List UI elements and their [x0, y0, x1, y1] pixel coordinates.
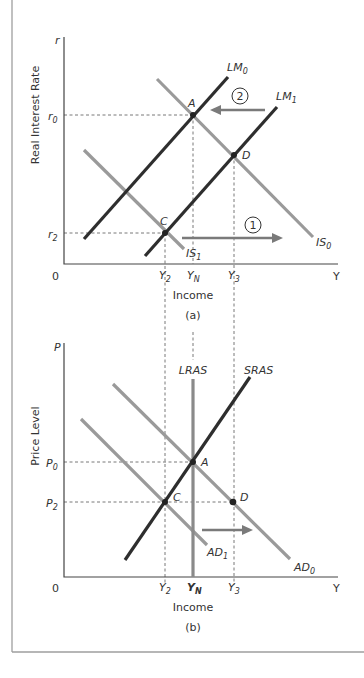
- point-c-marker: [162, 230, 168, 236]
- y-axis-title-a: Real Interest Rate: [29, 66, 42, 165]
- sras-label: SRAS: [244, 364, 273, 377]
- step-1-label: 1: [250, 219, 257, 232]
- tick-y2-b: Y2: [159, 581, 171, 596]
- point-a-label-b: A: [200, 456, 209, 469]
- arrow-head-left: [210, 105, 221, 115]
- point-d-label-b: D: [240, 491, 248, 504]
- ad1-label: AD1: [206, 546, 228, 561]
- ad1-curve: [81, 419, 207, 545]
- point-d-label: D: [242, 149, 250, 162]
- tick-yn-b: YN: [187, 581, 202, 596]
- point-a-label: A: [187, 97, 196, 110]
- tick-p2: P2: [46, 497, 58, 512]
- point-c-label: C: [160, 215, 168, 228]
- origin-b: 0: [52, 582, 59, 595]
- lm0-label: LM0: [227, 61, 248, 76]
- is0-label: IS0: [316, 236, 331, 251]
- arrow-head-right: [272, 233, 283, 243]
- origin-a: 0: [52, 270, 59, 283]
- is1-curve: [84, 150, 184, 249]
- is1-label: IS1: [186, 247, 201, 262]
- figure-frame: 2 1 A D C LM0 LM1 IS0 IS1 r Y 0 r0 r2 Y2…: [0, 0, 364, 678]
- x-axis-title-b: Income: [173, 601, 214, 614]
- tick-p0: P0: [46, 457, 58, 472]
- panel-a-caption: (a): [185, 309, 200, 322]
- y-axis-var-r: r: [55, 34, 61, 47]
- tick-y2-a: Y2: [159, 269, 171, 284]
- panel-b-ad-as: A C D LRAS SRAS AD0 AD1 P Y 0 P0 P2 Y2 Y…: [29, 341, 340, 634]
- sras-curve: [125, 377, 250, 560]
- point-d-marker-b: [230, 499, 237, 506]
- tick-r0: r0: [48, 110, 58, 125]
- lm0-curve: [84, 77, 228, 239]
- step-2-label: 2: [237, 90, 244, 103]
- point-d-marker: [231, 152, 237, 158]
- arrow-head-right-b: [242, 525, 253, 535]
- y-axis-var-p: P: [54, 341, 61, 354]
- ad0-label: AD0: [293, 561, 315, 576]
- point-a-marker: [190, 112, 196, 118]
- axes-a: [64, 37, 338, 264]
- x-axis-var-y-a: Y: [332, 270, 340, 283]
- x-axis-title-a: Income: [173, 289, 214, 302]
- panel-b-caption: (b): [185, 621, 201, 634]
- tick-r2: r2: [48, 228, 58, 243]
- point-a-marker-b: [190, 459, 196, 465]
- point-c-marker-b: [162, 499, 168, 505]
- tick-y3-b: Y3: [228, 581, 240, 596]
- x-axis-var-y-b: Y: [332, 582, 340, 595]
- tick-yn-a: YN: [187, 269, 200, 284]
- point-c-label-b: C: [173, 491, 181, 504]
- y-axis-title-b: Price Level: [29, 406, 42, 465]
- tick-y3-a: Y3: [228, 269, 240, 284]
- axes-b: [64, 383, 338, 577]
- ad0-curve: [113, 384, 290, 559]
- lras-label: LRAS: [179, 364, 207, 377]
- lm1-label: LM1: [276, 90, 297, 105]
